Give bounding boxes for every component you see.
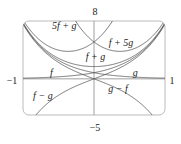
- curve-label: 5f + g: [52, 20, 77, 31]
- curve-label: f − g: [33, 90, 53, 101]
- curve-label: f + 5g: [109, 37, 134, 48]
- y-max-label: 8: [93, 6, 98, 17]
- y-min-label: −5: [90, 122, 101, 133]
- curve-label: f + g: [86, 51, 106, 62]
- curve-label: g − f: [108, 83, 129, 94]
- curve-labels: 5f + gf + 5gf + gfgf − gg − f: [33, 20, 138, 101]
- x-max-label: 1: [170, 75, 175, 86]
- curve-label: f: [50, 67, 54, 78]
- chart: 5f + gf + 5gf + gfgf − gg − f 8 −5 −1 1: [0, 0, 181, 144]
- curve-label: g: [133, 67, 138, 78]
- x-min-label: −1: [7, 75, 18, 86]
